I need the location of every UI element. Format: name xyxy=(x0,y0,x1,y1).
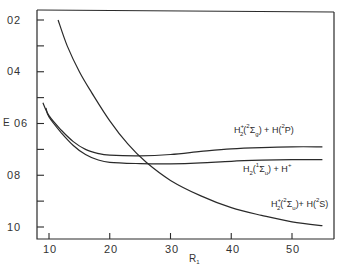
x-axis-label: R1 xyxy=(189,253,200,265)
y-tick-label: 08 xyxy=(7,169,21,181)
y-tick-labels: 02 04 06 08 10 xyxy=(7,14,28,233)
x-tick-labels: 10 20 30 40 50 xyxy=(43,243,300,255)
y-tick-label: 10 xyxy=(7,221,21,233)
curve-label-middle: H2(1Σu) + H+ xyxy=(243,162,292,176)
y-tick-label: 04 xyxy=(7,65,21,77)
y-tick-label: 02 xyxy=(7,14,21,26)
y-axis-label: E xyxy=(3,117,10,128)
curve-middle xyxy=(46,108,322,164)
y-tick-label: 06 xyxy=(14,117,28,129)
x-tick-label: 40 xyxy=(226,243,240,255)
x-axis-ticks xyxy=(49,233,292,239)
x-tick-label: 20 xyxy=(104,243,118,255)
potential-energy-chart: 02 04 06 08 10 E 10 20 30 40 50 R1 H+2(2… xyxy=(0,0,344,271)
y-axis-ticks xyxy=(37,20,44,227)
curve-label-lower: H+2(2Σu)+ H(2S) xyxy=(271,197,328,211)
x-tick-label: 50 xyxy=(286,243,300,255)
x-tick-label: 10 xyxy=(43,243,57,255)
curve-label-upper: H+2(2Σg) + H(2P) xyxy=(234,123,294,137)
x-tick-label: 30 xyxy=(165,243,179,255)
